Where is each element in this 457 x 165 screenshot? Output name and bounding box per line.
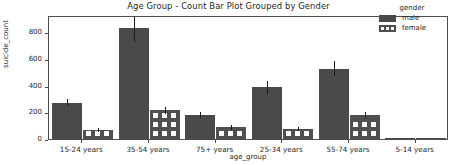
bar-hatch-cell <box>353 131 358 136</box>
bar-hatch-cell <box>162 113 167 118</box>
error-bar-male-4 <box>334 61 335 76</box>
legend-title: gender <box>373 4 451 12</box>
bar-female-5 <box>416 138 446 139</box>
y-tick-label: 800 <box>29 28 42 36</box>
bar-male-4 <box>319 69 349 139</box>
legend-entry-female[interactable]: female <box>373 24 451 32</box>
bar-female-1 <box>150 110 180 139</box>
y-tick-line <box>45 60 48 61</box>
bar-hatch-cell <box>171 113 176 118</box>
legend-label: female <box>402 24 426 32</box>
error-bar-male-2 <box>200 112 201 118</box>
x-tick-line <box>281 140 282 143</box>
bar-hatch-cell <box>219 131 224 136</box>
y-tick-line <box>45 140 48 141</box>
bar-hatch-cell <box>86 131 91 136</box>
bar-hatch-cell <box>353 122 358 127</box>
bar-hatch-cell <box>362 131 367 136</box>
bar-male-5 <box>385 138 415 139</box>
bar-male-0 <box>52 103 82 139</box>
plot-axes <box>48 16 448 140</box>
y-tick-label: 400 <box>29 82 42 90</box>
bar-hatch-cell <box>171 122 176 127</box>
bar-hatch-cell <box>162 131 167 136</box>
plot-area <box>49 17 447 139</box>
legend-items: malefemale <box>373 14 451 32</box>
bar-hatch-cell <box>295 131 300 136</box>
y-tick-line <box>45 33 48 34</box>
bar-hatch-cell <box>171 131 176 136</box>
error-bar-female-4 <box>365 112 366 118</box>
error-bar-female-0 <box>98 128 99 131</box>
solid-dark-swatch <box>379 15 396 22</box>
bar-hatch-cell <box>237 131 242 136</box>
x-tick-line <box>81 140 82 143</box>
x-tick-line <box>148 140 149 143</box>
legend: gender malefemale <box>373 4 451 34</box>
bar-hatch-cell <box>104 131 109 136</box>
error-bar-female-2 <box>231 125 232 130</box>
bar-hatch-cell <box>362 122 367 127</box>
x-tick-line <box>348 140 349 143</box>
bar-hatch-cell <box>153 131 158 136</box>
y-tick-label: 200 <box>29 108 42 116</box>
bar-hatch-cell <box>162 122 167 127</box>
bar-hatch-cell <box>95 131 100 136</box>
error-bar-male-0 <box>67 99 68 106</box>
bar-male-1 <box>119 28 149 139</box>
error-bar-male-3 <box>267 81 268 94</box>
y-tick-label: 0 <box>38 135 42 143</box>
legend-hatch-cell <box>381 27 384 30</box>
x-axis-label: age_group <box>48 153 448 161</box>
y-tick-label: 600 <box>29 55 42 63</box>
legend-hatch-cell <box>391 27 394 30</box>
bar-hatch-cell <box>153 113 158 118</box>
bar-hatch-cell <box>228 131 233 136</box>
bar-male-2 <box>185 115 215 139</box>
legend-hatch-cell <box>386 27 389 30</box>
error-bar-male-1 <box>134 17 135 42</box>
error-bar-female-1 <box>165 107 166 114</box>
error-bar-female-3 <box>298 127 299 131</box>
matplotlib-figure: Age Group - Count Bar Plot Grouped by Ge… <box>0 0 457 165</box>
y-tick-line <box>45 113 48 114</box>
bar-hatch-cell <box>371 122 376 127</box>
legend-label: male <box>402 14 419 22</box>
hatched-dark-swatch <box>379 25 396 32</box>
bar-female-4 <box>350 115 380 139</box>
legend-entry-male[interactable]: male <box>373 14 451 22</box>
bar-male-3 <box>252 87 282 139</box>
y-tick-line <box>45 87 48 88</box>
x-tick-line <box>215 140 216 143</box>
x-tick-line <box>415 140 416 143</box>
bar-hatch-cell <box>304 131 309 136</box>
y-axis-label: suicide_count <box>2 4 10 84</box>
bar-hatch-cell <box>153 122 158 127</box>
bar-hatch-cell <box>371 131 376 136</box>
bar-hatch-cell <box>286 131 291 136</box>
